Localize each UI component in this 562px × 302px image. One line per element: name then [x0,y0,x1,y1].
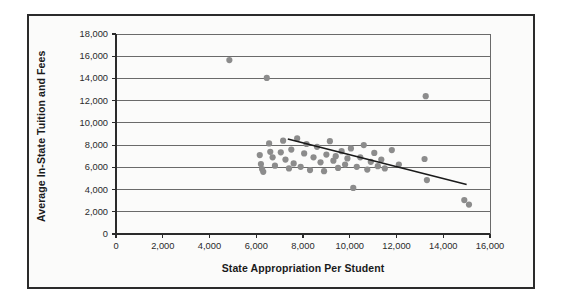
data-point [301,150,307,156]
x-tick-label: 2,000 [151,241,174,251]
data-point [291,160,297,166]
data-point [310,154,316,160]
data-point [389,147,395,153]
data-point [267,149,273,155]
y-tick-label: 4,000 [46,185,108,195]
y-tick-label: 2,000 [46,207,108,217]
x-tick-label: 0 [113,241,118,251]
data-points [226,57,472,208]
data-point [272,163,278,169]
data-point [317,159,323,165]
y-tick-label: 12,000 [46,96,108,106]
data-point [344,155,350,161]
data-point [327,138,333,144]
data-point [423,93,429,99]
data-point [226,57,232,63]
data-point [350,185,356,191]
data-point [461,197,467,203]
data-point [424,177,430,183]
data-point [354,164,360,170]
x-tick-label: 14,000 [429,241,457,251]
x-tick-label: 8,000 [291,241,314,251]
data-point [323,151,329,157]
trend-line [288,139,467,185]
y-tick-label: 14,000 [46,73,108,83]
data-point [298,164,304,170]
y-tick-label: 6,000 [46,162,108,172]
data-point [278,149,284,155]
x-axis-title: State Appropriation Per Student [116,262,490,274]
y-tick-label: 18,000 [46,29,108,39]
x-tick-label: 4,000 [198,241,221,251]
data-point [257,152,263,158]
y-tick-label: 10,000 [46,118,108,128]
x-tick-label: 16,000 [476,241,504,251]
data-point [286,165,292,171]
data-point [371,150,377,156]
y-tick-label: 0 [46,229,108,239]
x-tick-label: 10,000 [336,241,364,251]
data-point [321,168,327,174]
y-tick-label: 16,000 [46,51,108,61]
gridlines [116,34,490,234]
data-point [382,165,388,171]
data-point [348,145,354,151]
data-point [364,166,370,172]
data-point [282,156,288,162]
data-point [280,138,286,144]
x-axis [116,234,490,238]
data-point [375,163,381,169]
x-tick-label: 12,000 [382,241,410,251]
data-point [342,161,348,167]
y-tick-label: 8,000 [46,140,108,150]
data-point [270,154,276,160]
figure-container: Average In-State Tuition and Fees State … [0,0,562,302]
data-point [333,153,339,159]
data-point [266,140,272,146]
x-tick-label: 6,000 [245,241,268,251]
data-point [307,167,313,173]
trend-line-segment [288,139,467,185]
scatter-chart [0,0,562,302]
data-point [260,169,266,175]
data-point [421,156,427,162]
data-point [466,201,472,207]
data-point [264,75,270,81]
data-point [335,165,341,171]
y-axis [112,34,116,234]
data-point [361,142,367,148]
data-point [288,146,294,152]
